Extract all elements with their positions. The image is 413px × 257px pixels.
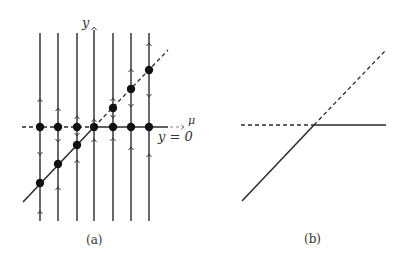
- fixed-point: [90, 123, 98, 131]
- panel-a: y μ y = 0 (a): [22, 15, 195, 247]
- panel-b-caption: (b): [304, 232, 321, 246]
- y-equals-zero-label: y = 0: [157, 129, 193, 144]
- unstable-branch-ymu: [314, 50, 386, 125]
- panel-a-caption: (a): [86, 233, 103, 247]
- fixed-point: [127, 85, 135, 93]
- y-axis-arrow-icon: [92, 27, 97, 30]
- fixed-point: [54, 160, 62, 168]
- fixed-point: [109, 104, 117, 112]
- fixed-point: [145, 66, 153, 74]
- mu-axis-label: μ: [188, 114, 195, 127]
- fixed-point: [127, 123, 135, 131]
- fixed-point: [36, 179, 44, 187]
- fixed-point: [54, 123, 62, 131]
- fixed-point: [145, 123, 153, 131]
- bifurcation-figure: y μ y = 0 (a) (b): [0, 0, 413, 257]
- stable-branch-ymu: [242, 125, 314, 201]
- fixed-point: [73, 141, 81, 149]
- fixed-point: [73, 123, 81, 131]
- panel-b: (b): [241, 50, 386, 246]
- fixed-point: [109, 123, 117, 131]
- fixed-point: [36, 123, 44, 131]
- y-axis-label: y: [81, 15, 90, 30]
